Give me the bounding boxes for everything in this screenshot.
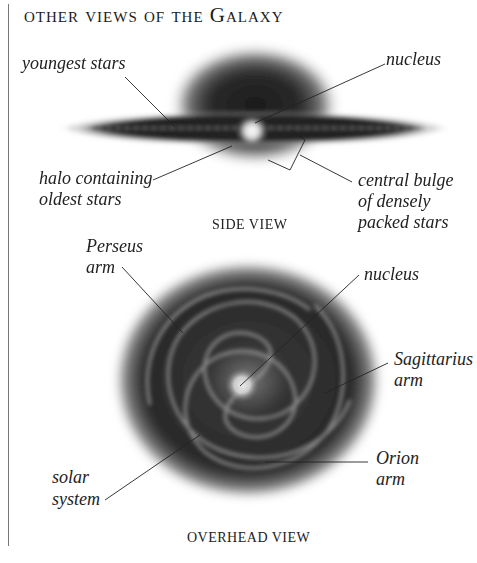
overhead-view-galaxy	[113, 260, 383, 500]
label-orion-line2: arm	[376, 469, 405, 490]
label-solar-line2: system	[52, 489, 100, 510]
label-side-nucleus: nucleus	[386, 49, 441, 70]
label-youngest-stars: youngest stars	[22, 53, 126, 74]
overhead-view-caption: OVERHEAD VIEW	[187, 530, 310, 546]
label-bulge-line3: packed stars	[358, 212, 448, 233]
label-sagittarius-line1: Sagittarius	[394, 349, 473, 370]
label-orion-line1: Orion	[376, 448, 419, 469]
label-bulge-line2: of densely	[358, 191, 430, 212]
label-perseus-line1: Perseus	[86, 236, 143, 257]
label-solar-line1: solar	[52, 467, 89, 488]
label-halo-line2: oldest stars	[39, 189, 122, 210]
label-overhead-nucleus: nucleus	[364, 264, 419, 285]
label-halo-line1: halo containing	[39, 168, 153, 189]
label-bulge-line1: central bulge	[358, 170, 453, 191]
label-sagittarius-line2: arm	[394, 370, 423, 391]
label-perseus-line2: arm	[86, 257, 115, 278]
side-view-caption: SIDE VIEW	[212, 217, 287, 233]
